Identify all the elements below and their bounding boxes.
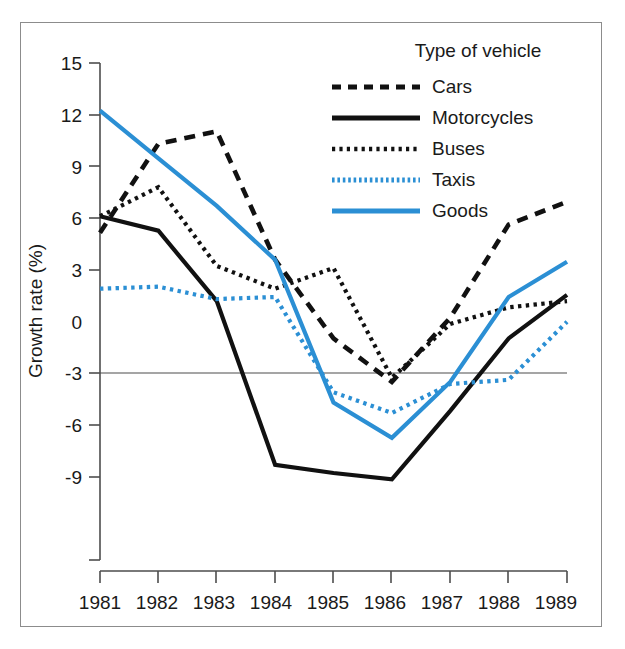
legend-swatch-buses-icon bbox=[330, 138, 422, 160]
legend-item-goods[interactable]: Goods bbox=[330, 195, 580, 226]
legend-label-motorcycles: Motorcycles bbox=[422, 107, 533, 129]
legend-swatch-taxis-icon bbox=[330, 169, 422, 191]
legend-item-buses[interactable]: Buses bbox=[330, 133, 580, 164]
legend-label-goods: Goods bbox=[422, 200, 488, 222]
legend-swatch-goods-icon bbox=[330, 200, 422, 222]
legend-item-cars[interactable]: Cars bbox=[330, 71, 580, 102]
legend-item-taxis[interactable]: Taxis bbox=[330, 164, 580, 195]
x-axis-ticks bbox=[100, 571, 567, 583]
legend-swatch-motorcycles-icon bbox=[330, 107, 422, 129]
legend-item-motorcycles[interactable]: Motorcycles bbox=[330, 102, 580, 133]
chart-legend: Type of vehicle Cars Motorcycles bbox=[330, 40, 580, 226]
legend-swatch-cars-icon bbox=[330, 76, 422, 98]
legend-label-taxis: Taxis bbox=[422, 169, 475, 191]
legend-label-cars: Cars bbox=[422, 76, 472, 98]
legend-label-buses: Buses bbox=[422, 138, 485, 160]
series-line-motorcycles bbox=[100, 216, 567, 479]
y-axis-ticks bbox=[89, 63, 100, 560]
chart-figure: 15 12 9 6 3 0 -3 -6 -9 Growth rate (%) 1… bbox=[0, 0, 625, 649]
legend-title: Type of vehicle bbox=[330, 40, 580, 62]
